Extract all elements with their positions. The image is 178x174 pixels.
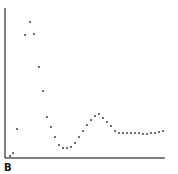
data-point <box>54 136 56 138</box>
data-point <box>50 126 52 128</box>
data-point <box>90 119 92 121</box>
data-point <box>102 117 104 119</box>
data-point <box>24 34 26 36</box>
panel-label: B <box>4 163 12 173</box>
data-point <box>134 132 136 134</box>
data-point <box>154 132 156 134</box>
data-point <box>38 66 40 68</box>
data-point <box>12 152 14 154</box>
data-point <box>138 132 140 134</box>
data-point <box>33 33 35 35</box>
data-point <box>62 147 64 149</box>
data-point <box>162 130 164 132</box>
data-point <box>122 132 124 134</box>
data-point <box>74 142 76 144</box>
data-point <box>126 132 128 134</box>
data-point <box>142 133 144 135</box>
data-point <box>66 147 68 149</box>
data-point <box>42 90 44 92</box>
scatter-plot <box>0 0 178 174</box>
data-point <box>29 21 31 23</box>
data-point <box>94 115 96 117</box>
data-point <box>9 155 11 157</box>
data-point <box>130 132 132 134</box>
data-point <box>106 121 108 123</box>
data-point <box>58 144 60 146</box>
data-point <box>98 113 100 115</box>
data-point <box>150 132 152 134</box>
data-point <box>114 130 116 132</box>
data-point <box>86 124 88 126</box>
data-point <box>146 133 148 135</box>
data-point <box>16 128 18 130</box>
data-point <box>46 116 48 118</box>
data-point <box>110 125 112 127</box>
data-points <box>9 21 164 157</box>
data-point <box>78 136 80 138</box>
data-point <box>70 146 72 148</box>
data-point <box>82 130 84 132</box>
data-point <box>158 131 160 133</box>
data-point <box>118 132 120 134</box>
